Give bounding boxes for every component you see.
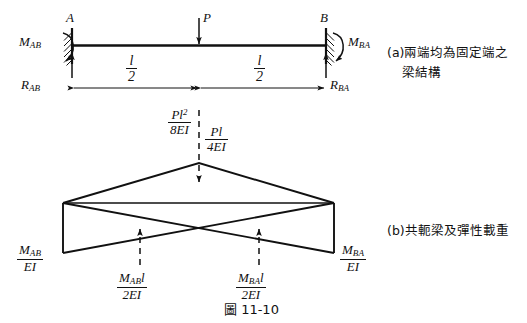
right-ordinate-value: MBA EI	[340, 243, 366, 274]
left-elastic-num-subscript: AB	[130, 276, 141, 286]
peak-moment-denominator: 8EI	[168, 122, 191, 137]
moment-arrow-right	[333, 33, 343, 61]
reaction-right-subscript: BA	[338, 83, 349, 93]
panel-a-caption-line-2: 梁結構	[402, 64, 441, 83]
moment-left-symbol: M	[19, 34, 30, 49]
span-left-numerator: l	[126, 53, 137, 68]
left-ordinate-num-subscript: AB	[30, 248, 41, 258]
peak-moment-num-text: Pl	[171, 107, 183, 122]
peak-moment-value: Pl2 8EI	[168, 108, 191, 137]
right-ordinate-numerator: MBA	[340, 243, 366, 259]
figure-11-10: A B P MAB MBA RAB RBA l 2 l 2 Pl2 8EI Pl…	[0, 0, 527, 323]
figure-number-label: 圖 11-10	[224, 299, 279, 318]
right-elastic-load-value: MBAl 2EI	[236, 271, 266, 302]
panel-a-caption-line-1: (a)兩端均為固定端之	[387, 44, 508, 63]
right-ordinate-num-symbol: M	[342, 242, 353, 257]
reaction-right-symbol: R	[330, 77, 338, 92]
span-right-dimension: l 2	[254, 53, 265, 84]
left-elastic-load-value: MABl 2EI	[117, 271, 147, 302]
moment-left-subscript: AB	[30, 40, 41, 50]
fixed-support-right	[326, 28, 334, 66]
node-label-b: B	[320, 11, 328, 24]
point-load-label: P	[203, 11, 211, 24]
panel-b-caption: (b)共軛梁及彈性載重	[387, 222, 509, 241]
left-ordinate-denominator: EI	[17, 259, 43, 274]
peak-load-denominator: 4EI	[205, 139, 228, 154]
right-elastic-num-subscript: BA	[249, 276, 260, 286]
peak-moment-exponent: 2	[183, 107, 187, 117]
reaction-left-subscript: AB	[29, 83, 40, 93]
right-elastic-numerator: MBAl	[236, 271, 266, 287]
node-label-a: A	[66, 11, 74, 24]
left-elastic-denominator: 2EI	[117, 287, 147, 302]
moment-label-right: MBA	[348, 35, 370, 50]
left-ordinate-value: MAB EI	[17, 243, 43, 274]
span-left-denominator: 2	[126, 68, 137, 84]
span-right-numerator: l	[254, 53, 265, 68]
peak-load-numerator: Pl	[205, 125, 228, 139]
left-elastic-num-symbol: M	[119, 270, 130, 285]
moment-right-subscript: BA	[359, 40, 370, 50]
right-ordinate-denominator: EI	[340, 259, 366, 274]
peak-elastic-load-value: Pl 4EI	[205, 125, 228, 154]
left-elastic-num-length: l	[141, 270, 145, 285]
right-elastic-num-symbol: M	[238, 270, 249, 285]
reaction-left-symbol: R	[21, 77, 29, 92]
reaction-label-left: RAB	[21, 78, 40, 93]
left-ordinate-numerator: MAB	[17, 243, 43, 259]
span-left-dimension: l 2	[126, 53, 137, 84]
left-ordinate-num-symbol: M	[19, 242, 30, 257]
left-elastic-numerator: MABl	[117, 271, 147, 287]
moment-label-left: MAB	[19, 35, 41, 50]
reaction-label-right: RBA	[330, 78, 349, 93]
right-ordinate-num-subscript: BA	[353, 248, 364, 258]
span-right-denominator: 2	[254, 68, 265, 84]
moment-right-symbol: M	[348, 34, 359, 49]
right-elastic-num-length: l	[260, 270, 264, 285]
peak-moment-numerator: Pl2	[168, 108, 191, 122]
